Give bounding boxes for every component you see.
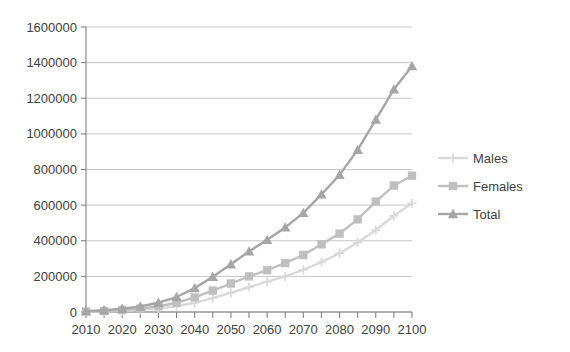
data-point-females bbox=[317, 240, 325, 248]
y-axis bbox=[81, 27, 86, 312]
data-point-females bbox=[408, 172, 416, 180]
legend-marker-females bbox=[449, 182, 457, 190]
data-point-males bbox=[393, 211, 395, 220]
legend-label-females: Females bbox=[473, 179, 523, 194]
y-tick-label: 200000 bbox=[34, 269, 77, 284]
x-tick-label: 2070 bbox=[289, 322, 318, 337]
data-point-males bbox=[248, 282, 250, 291]
data-point-males bbox=[212, 294, 214, 303]
data-point-females bbox=[353, 215, 361, 223]
y-tick-label: 1200000 bbox=[26, 91, 77, 106]
data-point-females bbox=[190, 293, 198, 301]
y-tick-labels: 0200000400000600000800000100000012000001… bbox=[26, 20, 77, 320]
data-point-females bbox=[227, 279, 235, 287]
data-point-total bbox=[189, 283, 199, 292]
gridlines-group bbox=[86, 27, 412, 312]
legend-marker-males bbox=[452, 153, 454, 162]
y-tick-label: 800000 bbox=[34, 162, 77, 177]
data-point-males bbox=[284, 272, 286, 281]
x-tick-label: 2090 bbox=[361, 322, 390, 337]
chart-canvas: 0200000400000600000800000100000012000001… bbox=[0, 0, 570, 352]
data-point-females bbox=[281, 259, 289, 267]
legend-label-total: Total bbox=[473, 207, 501, 222]
x-tick-label: 2060 bbox=[253, 322, 282, 337]
x-tick-label: 2020 bbox=[108, 322, 137, 337]
series-group bbox=[81, 61, 417, 316]
y-tick-label: 0 bbox=[70, 305, 77, 320]
data-point-females bbox=[263, 266, 271, 274]
data-point-males bbox=[375, 225, 377, 234]
data-point-females bbox=[372, 197, 380, 205]
y-tick-label: 1600000 bbox=[26, 20, 77, 35]
x-tick-label: 2040 bbox=[180, 322, 209, 337]
y-tick-label: 1400000 bbox=[26, 55, 77, 70]
y-tick-label: 400000 bbox=[34, 233, 77, 248]
data-point-males bbox=[339, 249, 341, 258]
y-tick-label: 1000000 bbox=[26, 126, 77, 141]
legend-label-males: Males bbox=[473, 151, 508, 166]
x-tick-labels: 2010202020302040205020602070208020902100 bbox=[72, 322, 427, 337]
data-point-females bbox=[390, 181, 398, 189]
data-point-males bbox=[266, 277, 268, 286]
data-point-males bbox=[411, 199, 413, 208]
y-tick-label: 600000 bbox=[34, 198, 77, 213]
data-point-males bbox=[302, 265, 304, 274]
legend: MalesFemalesTotal bbox=[438, 151, 523, 222]
data-point-total bbox=[244, 246, 254, 255]
data-point-males bbox=[357, 238, 359, 247]
data-point-females bbox=[209, 286, 217, 294]
x-tick-label: 2080 bbox=[325, 322, 354, 337]
x-tick-label: 2050 bbox=[216, 322, 245, 337]
x-tick-label: 2010 bbox=[72, 322, 101, 337]
series-line-males bbox=[86, 203, 412, 311]
x-axis bbox=[86, 312, 412, 318]
data-point-males bbox=[321, 258, 323, 267]
data-point-males bbox=[230, 288, 232, 297]
x-tick-label: 2030 bbox=[144, 322, 173, 337]
data-point-females bbox=[335, 229, 343, 237]
data-point-females bbox=[245, 272, 253, 280]
x-tick-label: 2100 bbox=[398, 322, 427, 337]
data-point-females bbox=[299, 251, 307, 259]
line-chart: 0200000400000600000800000100000012000001… bbox=[0, 0, 570, 352]
